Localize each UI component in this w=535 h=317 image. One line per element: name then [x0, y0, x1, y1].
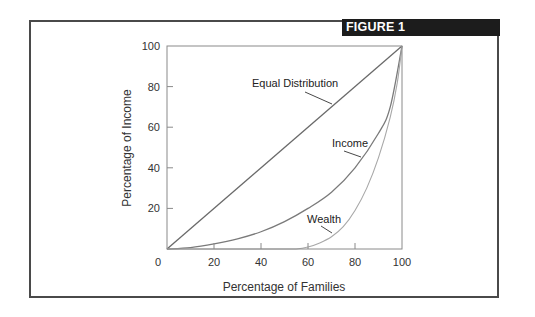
x-tick-label: 80	[349, 256, 361, 268]
y-tick-label: 40	[148, 162, 160, 174]
y-tick-label: 100	[142, 40, 160, 52]
label-wealth: Wealth	[307, 213, 341, 225]
lorenz-chart: 02040608010020406080100 Percentage of Fa…	[0, 0, 535, 317]
annotation-wealth: Wealth	[307, 213, 341, 233]
leader-line	[305, 92, 332, 104]
x-tick-label: 0	[155, 256, 161, 268]
x-axis-title: Percentage of Families	[223, 280, 346, 294]
leader-line	[344, 151, 361, 157]
y-tick-label: 20	[148, 202, 160, 214]
x-tick-label: 20	[208, 256, 220, 268]
y-tick-label: 60	[148, 121, 160, 133]
x-tick-label: 60	[302, 256, 314, 268]
leader-line	[321, 226, 332, 233]
x-tick-label: 100	[393, 256, 411, 268]
label-equal-distribution: Equal Distribution	[252, 77, 338, 89]
x-tick-label: 40	[255, 256, 267, 268]
annotation-income: Income	[332, 137, 368, 157]
label-income: Income	[332, 137, 368, 149]
annotation-equal-distribution: Equal Distribution	[252, 77, 338, 104]
y-axis-title: Percentage of Income	[120, 89, 134, 207]
y-tick-label: 80	[148, 81, 160, 93]
